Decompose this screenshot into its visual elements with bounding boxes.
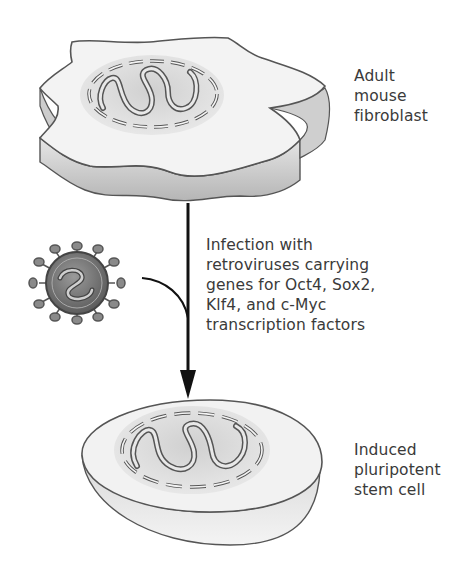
retrovirus-icon	[29, 242, 125, 324]
ips-cell	[82, 400, 322, 545]
infection-label: Infection with retroviruses carrying gen…	[206, 235, 375, 335]
fibroblast-cell	[40, 37, 330, 200]
virus-connector	[142, 278, 188, 318]
ips-cell-label: Induced pluripotent stem cell	[354, 440, 441, 500]
fibroblast-label: Adult mouse fibroblast	[354, 66, 428, 126]
